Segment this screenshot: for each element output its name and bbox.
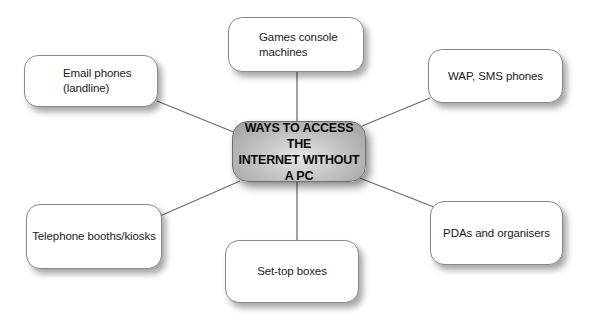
center-label: WAYS TO ACCESS THE INTERNET WITHOUT A PC xyxy=(233,120,365,184)
connector-pda xyxy=(357,177,434,207)
mind-map-diagram: Email phones (landline) Games console ma… xyxy=(0,0,589,323)
node-label: Email phones (landline) xyxy=(63,66,131,96)
connector-wap xyxy=(362,98,430,126)
connector-email xyxy=(157,101,236,133)
node-pdas-organisers: PDAs and organisers xyxy=(430,201,563,265)
node-games-console: Games console machines xyxy=(228,17,364,72)
center-node-ways-to-access: WAYS TO ACCESS THE INTERNET WITHOUT A PC xyxy=(232,121,366,182)
node-label: WAP, SMS phones xyxy=(448,69,543,84)
connector-telephone xyxy=(160,181,240,216)
node-label: Telephone booths/kiosks xyxy=(32,229,156,244)
node-label: Games console machines xyxy=(259,30,338,60)
node-telephone-booths: Telephone booths/kiosks xyxy=(26,204,162,269)
node-label: PDAs and organisers xyxy=(443,226,550,241)
node-set-top-boxes: Set-top boxes xyxy=(225,240,359,303)
node-email-phones: Email phones (landline) xyxy=(24,55,158,107)
node-wap-sms-phones: WAP, SMS phones xyxy=(428,49,563,103)
node-label: Set-top boxes xyxy=(257,264,327,279)
